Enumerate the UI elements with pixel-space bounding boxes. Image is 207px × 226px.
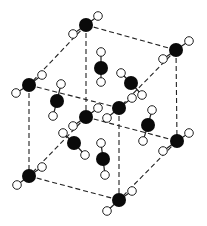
- molecule-corner-back-bottom-right: [159, 129, 194, 156]
- heavy-atom: [112, 193, 126, 207]
- hydrogen-atom: [94, 104, 103, 113]
- hydrogen-atom: [12, 89, 21, 98]
- hydrogen-atom: [185, 37, 194, 46]
- hydrogen-atom: [185, 129, 194, 138]
- hydrogen-atom: [69, 30, 78, 39]
- unit-cell-canvas: [0, 0, 207, 226]
- hydrogen-atom: [69, 122, 78, 131]
- molecule-face-right-inner: [139, 106, 157, 146]
- heavy-atom: [170, 134, 184, 148]
- heavy-atom: [96, 152, 110, 166]
- heavy-atom: [79, 18, 93, 32]
- molecules: [12, 12, 194, 216]
- hydrogen-atom: [49, 112, 58, 121]
- hydrogen-atom: [101, 171, 110, 180]
- cell-edge-back_bottom_left-to-back_bottom_right: [86, 117, 177, 141]
- cell-edge-back_top_left-to-back_top_right: [86, 25, 176, 50]
- hydrogen-atom: [139, 137, 148, 146]
- hydrogen-atom: [81, 151, 90, 160]
- hydrogen-atom: [94, 12, 103, 21]
- hydrogen-atom: [117, 69, 126, 78]
- molecule-face-bottom-inner: [96, 139, 110, 180]
- hydrogen-atom: [97, 78, 106, 87]
- hydrogen-atom: [57, 80, 66, 89]
- heavy-atom: [124, 76, 138, 90]
- molecule-face-left-inner: [49, 80, 66, 121]
- cell-edge-back_top_right-to-back_bottom_right: [176, 50, 177, 141]
- hydrogen-atom: [97, 48, 106, 57]
- hydrogen-atom: [59, 129, 68, 138]
- hydrogen-atom: [13, 181, 22, 190]
- molecule-face-top-inner: [94, 48, 108, 87]
- cell-edge-front_top_left-to-front_top_right: [29, 85, 119, 108]
- hydrogen-atom: [138, 91, 147, 100]
- molecule-face-front-inner: [59, 129, 90, 160]
- crystal-unit-cell-diagram: [0, 0, 207, 226]
- hydrogen-atom: [97, 139, 106, 148]
- heavy-atom: [169, 43, 183, 57]
- heavy-atom: [79, 110, 93, 124]
- heavy-atom: [141, 118, 155, 132]
- hydrogen-atom: [128, 94, 137, 103]
- heavy-atom: [94, 61, 108, 75]
- heavy-atom: [22, 78, 36, 92]
- hydrogen-atom: [159, 55, 168, 64]
- heavy-atom: [67, 136, 81, 150]
- hydrogen-atom: [38, 163, 47, 172]
- heavy-atom: [112, 101, 126, 115]
- hydrogen-atom: [159, 147, 168, 156]
- heavy-atom: [50, 94, 64, 108]
- hydrogen-atom: [38, 71, 47, 80]
- heavy-atom: [22, 169, 36, 183]
- hydrogen-atom: [103, 114, 112, 123]
- hydrogen-atom: [128, 187, 137, 196]
- hydrogen-atom: [148, 106, 157, 115]
- hydrogen-atom: [103, 207, 112, 216]
